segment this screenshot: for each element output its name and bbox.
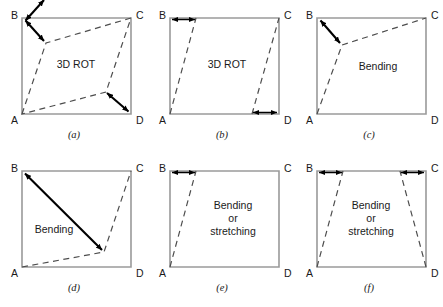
panel-f-mode-line-3: stretching bbox=[348, 225, 394, 237]
panel-a-label-d: D bbox=[136, 114, 144, 126]
panel-f-label-c: C bbox=[431, 162, 439, 174]
panel-b-mode-label: 3D ROT bbox=[208, 58, 247, 70]
panel-c-caption: (c) bbox=[363, 129, 375, 141]
panel-e-dashed-left bbox=[170, 171, 196, 267]
panel-e-mode-line-3: stretching bbox=[210, 225, 256, 237]
deformation-modes-figure: B C A D 3D ROT (a) bbox=[0, 0, 443, 307]
panel-c-label-c: C bbox=[431, 9, 439, 21]
panel-e-label-a: A bbox=[159, 267, 166, 279]
panel-d-caption: (d) bbox=[68, 282, 81, 294]
panel-f-label-a: A bbox=[306, 267, 313, 279]
panel-a-label-a: A bbox=[11, 114, 18, 126]
panel-a-arrow-d bbox=[107, 93, 129, 112]
panel-d: B C A D Bending (d) bbox=[0, 153, 148, 306]
panel-f: B C A D Bending or stretching (f) bbox=[295, 153, 443, 306]
panel-b-caption: (b) bbox=[216, 129, 229, 141]
panel-f-caption: (f) bbox=[364, 282, 374, 294]
panel-b-label-a: A bbox=[159, 114, 166, 126]
panel-b-label-d: D bbox=[284, 114, 292, 126]
panel-e-label-d: D bbox=[284, 267, 292, 279]
panel-f-dashed-right bbox=[400, 171, 426, 267]
panel-b-label-c: C bbox=[284, 9, 292, 21]
panel-d-label-a: A bbox=[11, 267, 18, 279]
panel-d-label-c: C bbox=[136, 162, 144, 174]
panel-a-label-b: B bbox=[11, 9, 18, 21]
panel-b-dashed-right bbox=[252, 18, 279, 114]
panel-c-label-a: A bbox=[306, 114, 313, 126]
panel-f-dashed-left bbox=[317, 171, 343, 267]
panel-e-label-c: C bbox=[284, 162, 292, 174]
panel-c: B C A D Bending (c) bbox=[295, 0, 443, 153]
panel-c-label-d: D bbox=[431, 114, 439, 126]
panel-c-arrow-b bbox=[321, 21, 341, 44]
panel-e-square bbox=[170, 171, 279, 267]
panel-a-label-c: C bbox=[136, 9, 144, 21]
panel-f-mode-line-1: Bending bbox=[352, 199, 391, 211]
panel-c-mode-label: Bending bbox=[359, 60, 398, 72]
panel-d-label-d: D bbox=[136, 267, 144, 279]
panel-a-mode-label: 3D ROT bbox=[57, 58, 96, 70]
panel-d-mode-label: Bending bbox=[35, 223, 74, 235]
panel-e-label-b: B bbox=[159, 162, 166, 174]
panel-e: B C A D Bending or stretching (e) bbox=[148, 153, 296, 306]
panel-f-label-d: D bbox=[431, 267, 439, 279]
panel-a-caption: (a) bbox=[68, 129, 81, 141]
panel-f-mode-line-2: or bbox=[366, 212, 376, 224]
panel-a: B C A D 3D ROT (a) bbox=[0, 0, 148, 153]
panel-f-label-b: B bbox=[306, 162, 313, 174]
panel-e-mode-line-2: or bbox=[228, 212, 238, 224]
panel-b-dashed-left bbox=[170, 18, 196, 114]
panel-e-caption: (e) bbox=[216, 282, 228, 294]
panel-d-label-b: B bbox=[11, 162, 18, 174]
panel-a-arrow-b-line bbox=[26, 21, 45, 42]
panel-b: B C A D 3D ROT (b) bbox=[148, 0, 296, 153]
panel-d-arrow-b bbox=[25, 174, 102, 251]
panel-c-label-b: B bbox=[306, 9, 313, 21]
panel-e-mode-line-1: Bending bbox=[214, 199, 253, 211]
panel-b-label-b: B bbox=[159, 9, 166, 21]
